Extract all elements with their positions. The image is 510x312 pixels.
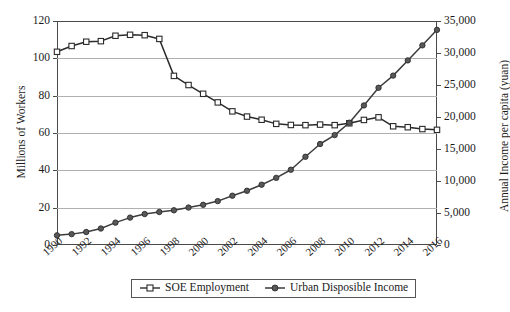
right-axis-tick-label: 25,000 [444, 79, 496, 91]
left-axis-tick-label: 120 [16, 15, 50, 27]
right-axis-tick-mark [437, 21, 441, 22]
left-axis-tick-mark [53, 96, 57, 97]
right-axis-tick-label: 5,000 [444, 207, 496, 219]
gridline [57, 170, 437, 171]
right-axis-tick-label: 15,000 [444, 143, 496, 155]
legend-label: Urban Disposible Income [290, 282, 408, 294]
gridline [57, 133, 437, 134]
right-axis-title: Annual Income per capita (yuan) [498, 51, 510, 221]
legend-item: Urban Disposible Income [264, 282, 408, 294]
right-axis-tick-mark [437, 117, 441, 118]
left-axis-tick-mark [53, 170, 57, 171]
right-axis-tick-mark [437, 149, 441, 150]
gridline [57, 96, 437, 97]
right-axis-tick-label: 20,000 [444, 111, 496, 123]
right-axis-tick-label: 35,000 [444, 15, 496, 27]
right-axis-tick-mark [437, 181, 441, 182]
right-axis-tick-mark [437, 85, 441, 86]
right-axis-tick-label: 0 [444, 239, 496, 251]
chart-legend: SOE EmploymentUrban Disposible Income [131, 279, 416, 298]
left-axis-tick-mark [53, 208, 57, 209]
left-axis-tick-mark [53, 133, 57, 134]
left-axis-tick-label: 100 [16, 52, 50, 64]
gridline [57, 58, 437, 59]
right-axis-tick-mark [437, 53, 441, 54]
gridline [57, 208, 437, 209]
right-axis-tick-mark [437, 213, 441, 214]
left-axis-tick-label: 20 [16, 202, 50, 214]
legend-filled-circle-icon [264, 283, 286, 293]
legend-open-square-icon [139, 283, 161, 293]
right-axis-tick-label: 10,000 [444, 175, 496, 187]
left-axis-tick-mark [53, 21, 57, 22]
legend-label: SOE Employment [165, 282, 249, 294]
left-axis-tick-mark [53, 58, 57, 59]
left-axis-title: Millions of Workers [15, 67, 27, 197]
right-axis-tick-label: 30,000 [444, 47, 496, 59]
legend-item: SOE Employment [139, 282, 249, 294]
